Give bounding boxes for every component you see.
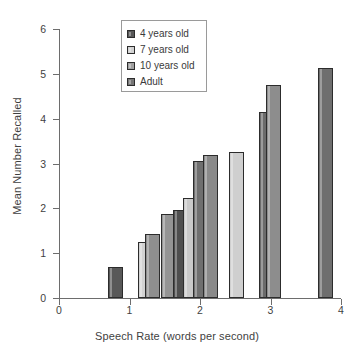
y-tick-label-6: 6	[28, 24, 46, 34]
y-tick-label-2: 2	[28, 203, 46, 213]
x-tick-label-2: 2	[190, 305, 210, 315]
x-tick-label-0: 0	[49, 305, 69, 315]
bar	[145, 234, 160, 298]
bar	[318, 68, 333, 298]
x-tick-label-1: 1	[120, 305, 140, 315]
y-tick-label-3: 3	[28, 159, 46, 169]
bar	[203, 155, 218, 298]
x-tick-label-3: 3	[261, 305, 281, 315]
bar-chart: 4 years old 7 years old 10 years old Adu…	[0, 0, 354, 357]
y-tick-label-0: 0	[28, 293, 46, 303]
plot-area	[59, 29, 341, 298]
y-axis-title: Mean Number Recalled	[11, 66, 23, 246]
y-tick-label-4: 4	[28, 114, 46, 124]
bar	[108, 267, 123, 298]
bar	[229, 152, 244, 298]
y-tick-label-5: 5	[28, 69, 46, 79]
x-axis-title: Speech Rate (words per second)	[0, 330, 354, 342]
bar	[266, 85, 281, 298]
y-tick-label-1: 1	[28, 248, 46, 258]
x-tick-label-4: 4	[331, 305, 351, 315]
